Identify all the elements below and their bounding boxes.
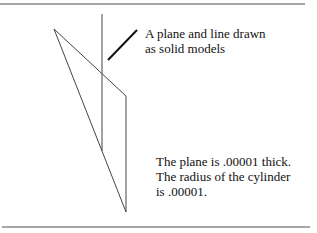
leader-pointer bbox=[108, 30, 137, 60]
dimension-note-line-1: The plane is .00001 thick. bbox=[156, 154, 291, 169]
dimension-note-label: The plane is .00001 thick. The radius of… bbox=[156, 154, 291, 199]
dimension-note-line-3: is .00001. bbox=[156, 184, 291, 199]
dimension-note-line-2: The radius of the cylinder bbox=[156, 169, 291, 184]
plane-solid-model bbox=[54, 29, 126, 212]
model-note-line-1: A plane and line drawn bbox=[145, 26, 266, 41]
model-note-line-2: as solid models bbox=[145, 41, 266, 56]
diagram-figure: A plane and line drawn as solid models T… bbox=[0, 0, 317, 233]
model-note-label: A plane and line drawn as solid models bbox=[145, 26, 266, 56]
